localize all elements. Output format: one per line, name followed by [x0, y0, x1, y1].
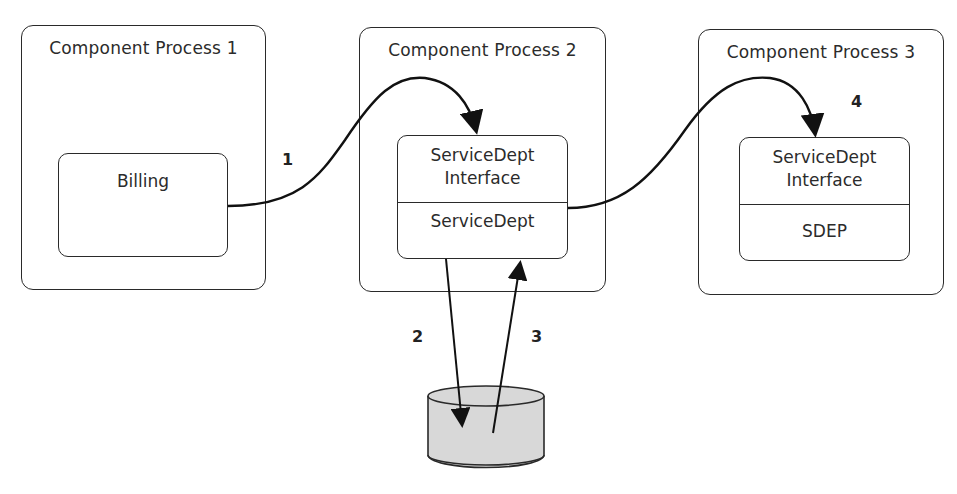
- interface-label-line1: ServiceDept: [398, 144, 567, 167]
- servicedept-component: ServiceDept Interface ServiceDept: [397, 135, 568, 259]
- billing-label: Billing: [59, 170, 227, 193]
- process-title: Component Process 2: [360, 40, 605, 60]
- step-label-1: 1: [282, 150, 293, 169]
- section-divider: [740, 204, 909, 205]
- step-label-3: 3: [531, 327, 542, 346]
- interface-label-line2: Interface: [740, 169, 909, 192]
- sdep-component: ServiceDept Interface SDEP: [739, 137, 910, 261]
- step-label-2: 2: [412, 327, 423, 346]
- interface-label-line2: Interface: [398, 167, 567, 190]
- step-label-4: 4: [851, 92, 862, 111]
- impl-label: SDEP: [740, 220, 909, 243]
- datastore-cylinder-icon: [428, 386, 544, 468]
- process-title: Component Process 3: [699, 42, 943, 62]
- process-title: Component Process 1: [22, 38, 265, 58]
- section-divider: [398, 202, 567, 203]
- interface-label-line1: ServiceDept: [740, 146, 909, 169]
- impl-label: ServiceDept: [398, 210, 567, 233]
- billing-component: Billing: [58, 153, 228, 257]
